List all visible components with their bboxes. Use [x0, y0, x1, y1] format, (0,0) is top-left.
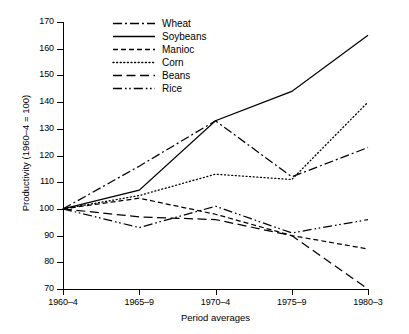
x-tick	[292, 289, 293, 295]
series-line-beans	[63, 209, 368, 289]
plot-area	[63, 22, 368, 289]
x-tick	[216, 289, 217, 295]
x-tick-label: 1965–9	[104, 298, 174, 307]
x-tick	[139, 289, 140, 295]
y-tick-label: 150	[14, 70, 54, 79]
x-tick-label: 1980–3	[333, 298, 403, 307]
y-tick-label: 170	[14, 17, 54, 26]
x-tick-label: 1960–4	[28, 298, 98, 307]
x-axis-title: Period averages	[63, 313, 368, 323]
x-tick-label: 1975–9	[257, 298, 327, 307]
x-tick	[63, 289, 64, 295]
y-axis-title: Productivity (1960–4 = 100)	[21, 43, 31, 263]
series-lines	[63, 22, 368, 289]
x-tick	[368, 289, 369, 295]
series-line-corn	[63, 102, 368, 209]
y-tick-label: 70	[14, 284, 54, 293]
y-tick-label: 160	[14, 44, 54, 53]
series-line-wheat	[63, 121, 368, 209]
x-tick-label: 1970–4	[181, 298, 251, 307]
y-tick-label: 80	[14, 257, 54, 266]
y-tick-label: 90	[14, 231, 54, 240]
productivity-line-chart: WheatSoybeansManiocCornBeansRice 7080901…	[0, 0, 409, 334]
